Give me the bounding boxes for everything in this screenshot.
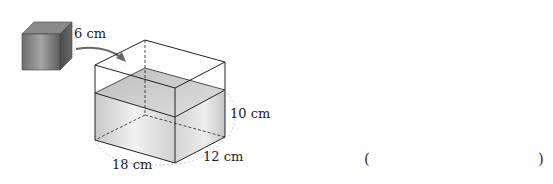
- arrow-icon: [76, 48, 126, 62]
- answer-open-paren: (: [364, 152, 370, 167]
- tank-width-label: 18 cm: [112, 158, 152, 171]
- tank-height-label: 10 cm: [230, 107, 270, 120]
- small-cube: [22, 22, 72, 70]
- cube-edge-label: 6 cm: [74, 27, 106, 40]
- answer-close-paren: ): [538, 152, 544, 167]
- problem-figure: 6 cm 10 cm 12 cm 18 cm ( ): [0, 0, 553, 184]
- tank-depth-label: 12 cm: [203, 150, 243, 163]
